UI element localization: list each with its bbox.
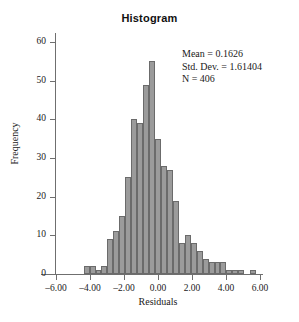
y-tick-label: 50 [16,76,46,86]
x-tick [260,275,261,280]
y-tick-label: 40 [16,114,46,124]
stat-stddev: Std. Dev. = 1.61404 [182,61,262,74]
y-tick-label: 30 [16,153,46,163]
x-tick [192,275,193,280]
stats-annotation: Mean = 0.1626 Std. Dev. = 1.61404 N = 40… [182,48,262,86]
x-tick [56,275,57,280]
chart-title: Histogram [0,12,299,24]
x-tick-label: 6.00 [238,283,282,293]
y-axis-title: Frequency [9,84,20,204]
y-tick-label: 10 [16,230,46,240]
y-tick-label: 0 [16,269,46,279]
x-tick [158,275,159,280]
histogram-bar [250,270,256,274]
y-tick-label: 20 [16,192,46,202]
y-tick-label: 60 [16,37,46,47]
x-tick [226,275,227,280]
stat-mean: Mean = 0.1626 [182,48,262,61]
x-tick [90,275,91,280]
histogram-bar [238,270,244,274]
x-axis-title: Residuals [56,296,260,307]
stat-n: N = 406 [182,73,262,86]
histogram-figure: Histogram 0102030405060 –6.00–4.00–2.000… [0,0,299,322]
x-tick [124,275,125,280]
